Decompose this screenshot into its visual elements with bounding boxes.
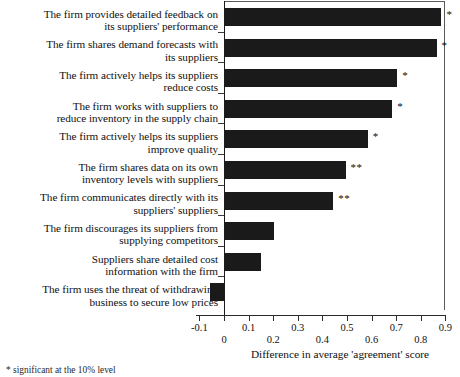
category-label: The firm shares demand forecasts withits… — [2, 38, 218, 63]
x-axis-tick — [445, 316, 446, 321]
bar — [225, 253, 261, 271]
x-axis-tick-label: 0.2 — [256, 334, 290, 345]
bar-row: * — [225, 63, 444, 94]
x-axis-tick — [298, 316, 299, 321]
y-axis-tick — [218, 246, 224, 247]
significance-marker: * — [442, 40, 448, 51]
bar-row: ** — [225, 155, 444, 186]
bar — [210, 283, 225, 301]
x-axis-tick-label: 0.1 — [232, 322, 266, 333]
y-axis-tick — [218, 123, 224, 124]
category-label-line: The firm provides detailed feedback on — [2, 8, 218, 21]
category-label-line: inventory levels with suppliers — [2, 173, 218, 186]
x-axis-tick — [372, 316, 373, 321]
significance-marker: * — [402, 70, 408, 81]
bar — [225, 222, 274, 240]
category-label-line: information with the firm — [2, 265, 218, 278]
x-axis-tick-label: 0.7 — [379, 322, 413, 333]
x-axis-line — [196, 315, 446, 316]
category-label-line: Suppliers share detailed cost — [2, 253, 218, 266]
bar — [225, 69, 397, 87]
category-label-line: The firm actively helps its suppliers — [2, 69, 218, 82]
plot-area: ********* — [224, 1, 445, 310]
category-label-line: The firm discourages its suppliers from — [2, 222, 218, 235]
category-label-line: reduce costs — [2, 81, 218, 94]
category-label-line: supplying competitors — [2, 234, 218, 247]
category-label-line: The firm shares data on its own — [2, 161, 218, 174]
category-label-line: business to secure low prices — [2, 296, 218, 309]
category-label: The firm uses the threat of withdrawingb… — [2, 283, 218, 308]
bar-row — [225, 277, 444, 308]
x-axis-tick-label: 0.6 — [355, 334, 389, 345]
y-axis-tick — [218, 215, 224, 216]
bar — [225, 192, 333, 210]
x-axis-tick-label: 0.3 — [281, 322, 315, 333]
y-axis-tick — [218, 32, 224, 33]
x-axis-title: Difference in average 'agreement' score — [224, 348, 456, 361]
category-label: The firm actively helps its suppliersred… — [2, 69, 218, 94]
category-label: The firm discourages its suppliers froms… — [2, 222, 218, 247]
significance-marker: * — [397, 101, 403, 112]
bar-row: * — [225, 33, 444, 64]
figure-footnote: * significant at the 10% level — [6, 365, 256, 377]
y-axis-tick — [218, 185, 224, 186]
x-axis-tick-label: 0 — [207, 334, 241, 345]
bar-row: * — [225, 2, 444, 33]
y-axis-tick — [218, 62, 224, 63]
bar — [225, 8, 441, 26]
category-label-line: The firm works with suppliers to — [2, 100, 218, 113]
category-label: The firm provides detailed feedback onit… — [2, 8, 218, 33]
bar-row: ** — [225, 186, 444, 217]
x-axis-tick-label: 0.9 — [428, 322, 460, 333]
category-label-line: The firm shares demand forecasts with — [2, 38, 218, 51]
significance-marker: ** — [351, 162, 363, 173]
y-axis-tick — [218, 276, 224, 277]
x-axis-tick — [322, 316, 323, 321]
x-axis-tick — [224, 316, 225, 321]
category-label-line: suppliers' suppliers — [2, 204, 218, 217]
category-label-line: improve quality — [2, 143, 218, 156]
x-axis-tick-label: 0.8 — [404, 334, 438, 345]
significance-marker: * — [446, 9, 452, 20]
category-label-column: The firm provides detailed feedback onit… — [0, 4, 218, 310]
bar — [225, 161, 346, 179]
category-label: The firm works with suppliers toreduce i… — [2, 100, 218, 125]
category-label-line: The firm communicates directly with its — [2, 191, 218, 204]
category-label: Suppliers share detailed costinformation… — [2, 253, 218, 278]
category-label-line: The firm uses the threat of withdrawing — [2, 283, 218, 296]
category-label-line: reduce inventory in the supply chain — [2, 112, 218, 125]
bar-row: * — [225, 94, 444, 125]
zero-axis-line — [224, 1, 225, 316]
category-label: The firm actively helps its suppliersimp… — [2, 130, 218, 155]
bar — [225, 130, 368, 148]
x-axis-tick-label: 0.4 — [305, 334, 339, 345]
x-axis-tick — [347, 316, 348, 321]
y-axis-tick — [218, 154, 224, 155]
x-axis-tick — [273, 316, 274, 321]
bar — [225, 100, 392, 118]
category-label-line: its suppliers — [2, 51, 218, 64]
x-axis-tick — [421, 316, 422, 321]
category-label: The firm communicates directly with itss… — [2, 191, 218, 216]
x-axis-tick-label: 0.5 — [330, 322, 364, 333]
bar-row: * — [225, 124, 444, 155]
x-axis-tick-label: -0.1 — [182, 322, 216, 333]
bar-row — [225, 247, 444, 278]
category-label-line: The firm actively helps its suppliers — [2, 130, 218, 143]
significance-marker: * — [373, 131, 379, 142]
bar — [225, 39, 437, 57]
category-label-line: its suppliers' performance — [2, 20, 218, 33]
x-axis-tick — [199, 316, 200, 321]
x-axis-tick — [249, 316, 250, 321]
y-axis-tick — [218, 93, 224, 94]
bar-row — [225, 216, 444, 247]
significance-marker: ** — [338, 193, 350, 204]
category-label: The firm shares data on its owninventory… — [2, 161, 218, 186]
x-axis-tick — [396, 316, 397, 321]
